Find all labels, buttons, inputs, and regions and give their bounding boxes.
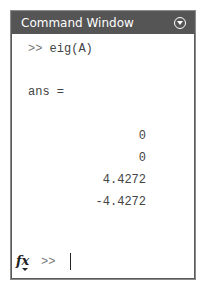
result-value: 0 [139,151,146,165]
title-bar: Command Window [12,12,194,34]
text-cursor[interactable] [70,253,71,270]
result-value: -4.4272 [96,195,146,209]
function-browser-icon[interactable]: fx [16,253,29,268]
prompt: >> [28,42,42,56]
command-line: >> eig(A) [28,42,93,56]
result-label: ans = [28,85,64,99]
command-window: Command Window >> eig(A) ans = 0 0 4.427… [11,11,195,279]
result-value: 0 [139,129,146,143]
window-title: Command Window [21,16,134,30]
command-text: eig(A) [50,42,93,56]
chevron-down-circle-icon[interactable] [174,17,186,29]
input-prompt: >> [41,255,55,269]
caret-down-icon [22,268,28,271]
result-value: 4.4272 [103,173,146,187]
